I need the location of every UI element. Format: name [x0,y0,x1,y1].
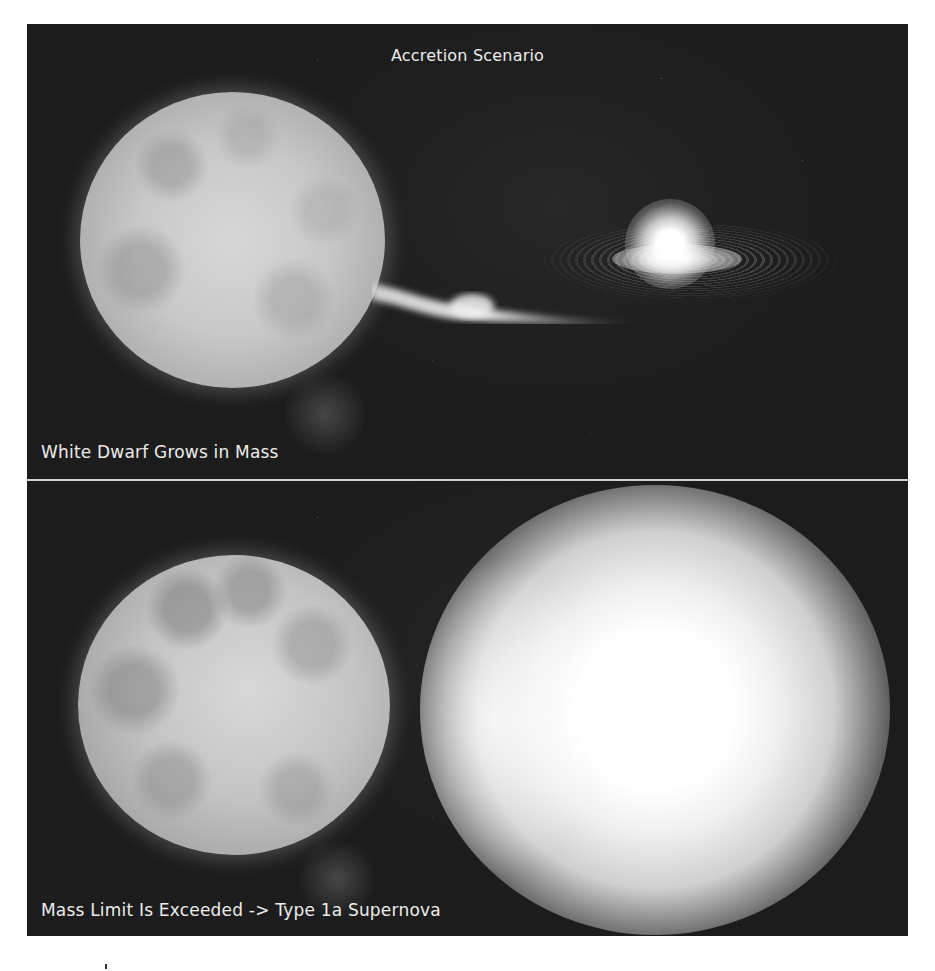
white-dwarf [625,199,715,289]
companion-giant-star [80,92,385,388]
caption-mass-limit-exceeded: Mass Limit Is Exceeded -> Type 1a Supern… [41,900,441,920]
figure-title: Accretion Scenario [27,46,908,65]
companion-giant-star [78,555,390,855]
type-1a-supernova-explosion [420,485,890,935]
stray-mark [105,964,107,969]
accretion-scenario-figure: Accretion Scenario White Dwarf Grows in … [27,24,908,936]
caption-white-dwarf-grows: White Dwarf Grows in Mass [41,442,279,462]
faint-nebula-glow [285,369,365,459]
panel-accretion: Accretion Scenario White Dwarf Grows in … [27,24,908,479]
